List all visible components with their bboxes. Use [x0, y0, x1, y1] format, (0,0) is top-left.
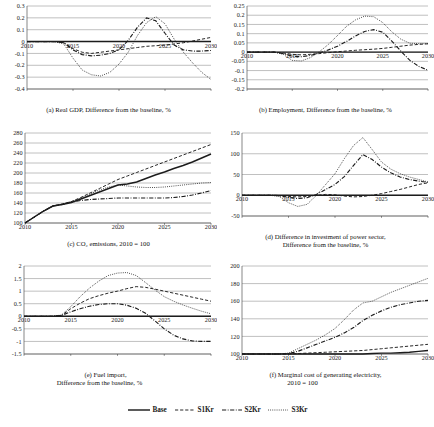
y-tick-label: -0.3 [15, 73, 25, 80]
caption-f-line1: (f) Marginal cost of generating electric… [223, 371, 428, 379]
y-tick-label: 140 [13, 199, 22, 206]
x-tick-label: 2025 [375, 195, 387, 202]
legend-item-s3kr: S3Kr [267, 406, 307, 414]
legend-swatch-dashed [174, 407, 196, 413]
legend-swatch-solid [127, 407, 151, 413]
chart-svg-d: -5005010015020102015202020252030 [217, 127, 434, 232]
chart-panel-d: -5005010015020102015202020252030 (d) Dif… [217, 127, 434, 260]
x-tick-label: 2010 [19, 223, 31, 230]
y-tick-label: 200 [230, 262, 239, 269]
x-tick-label: 2020 [331, 52, 343, 59]
x-tick-label: 2030 [205, 316, 217, 323]
x-tick-label: 2015 [67, 42, 79, 49]
chart-panel-f: 10012014016018020020102015202020252030 (… [217, 260, 434, 400]
y-tick-label: 1.5 [14, 275, 22, 282]
caption-d-line2: Difference from the baseline, % [223, 241, 428, 249]
legend-swatch-dotted [267, 407, 289, 413]
y-tick-label: 160 [13, 189, 22, 196]
y-tick-label: 180 [230, 280, 239, 287]
series-line-s2kr [242, 300, 428, 354]
x-tick-label: 2030 [422, 52, 434, 59]
y-tick-label: -0.2 [235, 85, 245, 92]
x-tick-label: 2010 [236, 354, 248, 361]
caption-e-line1: (e) Fuel import, [0, 371, 211, 379]
y-tick-label: 0.15 [234, 21, 245, 28]
chart-panel-a: -0.4-0.3-0.2-0.100.10.20.320102015202020… [0, 0, 217, 127]
y-tick-label: 260 [13, 139, 22, 146]
y-tick-label: -1 [16, 338, 21, 345]
x-tick-label: 2030 [422, 354, 434, 361]
y-tick-label: 280 [13, 129, 22, 136]
x-tick-label: 2015 [282, 354, 294, 361]
y-tick-label: 180 [13, 179, 22, 186]
x-tick-label: 2025 [375, 354, 387, 361]
x-tick-label: 2015 [65, 316, 77, 323]
plot-area-f: 10012014016018020020102015202020252030 [217, 260, 434, 370]
caption-d-line1: (d) Difference in investment of power se… [223, 233, 428, 241]
y-tick-label: 1 [18, 287, 21, 294]
chart-svg-b: -0.2-0.15-0.1-0.0500.050.10.150.20.25201… [217, 0, 434, 105]
y-tick-label: -1.5 [12, 350, 22, 357]
x-tick-label: 2020 [329, 354, 341, 361]
y-tick-label: 0.25 [234, 2, 245, 9]
y-tick-label: 140 [230, 315, 239, 322]
y-tick-label: 160 [230, 297, 239, 304]
x-tick-label: 2010 [236, 195, 248, 202]
y-tick-label: -0.5 [12, 325, 22, 332]
caption-c: (c) CO₂ emissions, 2010 = 100 [0, 239, 217, 248]
y-tick-label: 240 [13, 149, 22, 156]
caption-f: (f) Marginal cost of generating electric… [217, 370, 434, 387]
caption-a: (a) Real GDP, Difference from the baseli… [0, 105, 217, 114]
y-tick-label: 120 [230, 333, 239, 340]
caption-a-line1: (a) Real GDP, Difference from the baseli… [46, 106, 170, 113]
legend-label: Base [153, 406, 167, 414]
x-tick-label: 2010 [21, 42, 33, 49]
x-tick-label: 2015 [65, 223, 77, 230]
chart-svg-a: -0.4-0.3-0.2-0.100.10.20.320102015202020… [0, 0, 217, 105]
plot-area-d: -5005010015020102015202020252030 [217, 127, 434, 232]
y-tick-label: 0.1 [17, 26, 25, 33]
y-tick-label: 0.3 [17, 2, 25, 9]
series-line-base [25, 154, 211, 223]
series-line-s2kr [242, 155, 428, 199]
y-tick-label: 50 [233, 171, 239, 178]
y-tick-label: 0.5 [14, 300, 22, 307]
series-line-s3kr [24, 273, 211, 317]
x-tick-label: 2030 [205, 223, 217, 230]
x-tick-label: 2025 [158, 316, 170, 323]
caption-b: (b) Employment, Difference from the base… [217, 105, 434, 114]
chart-panel-b: -0.2-0.15-0.1-0.0500.050.10.150.20.25201… [217, 0, 434, 127]
y-tick-label: 0.1 [237, 30, 245, 37]
y-tick-label: 0.05 [234, 39, 245, 46]
y-tick-label: 100 [230, 150, 239, 157]
x-tick-label: 2025 [377, 52, 389, 59]
plot-area-a: -0.4-0.3-0.2-0.100.10.20.320102015202020… [0, 0, 217, 105]
caption-f-line2: 2010 = 100 [177, 379, 428, 387]
plot-area-b: -0.2-0.15-0.1-0.0500.050.10.150.20.25201… [217, 0, 434, 105]
caption-b-line1: (b) Employment, Difference from the base… [259, 106, 392, 113]
x-tick-label: 2025 [159, 42, 171, 49]
chart-svg-f: 10012014016018020020102015202020252030 [217, 260, 434, 370]
legend-item-base: Base [127, 406, 167, 414]
y-tick-label: -0.1 [235, 67, 245, 74]
x-tick-label: 2030 [422, 195, 434, 202]
plot-area-c: 1001201401601802002202402602802010201520… [0, 127, 217, 239]
y-tick-label: 150 [230, 129, 239, 136]
x-tick-label: 2020 [329, 195, 341, 202]
chart-svg-e: -1.5-1-0.500.511.5220102015202020252030 [0, 260, 217, 370]
x-tick-label: 2020 [112, 223, 124, 230]
y-tick-label: 0.2 [17, 14, 25, 21]
x-tick-label: 2010 [18, 316, 30, 323]
y-tick-label: -0.4 [15, 85, 25, 92]
chart-svg-c: 1001201401601802002202402602802010201520… [0, 127, 217, 239]
figure-panel-grid: -0.4-0.3-0.2-0.100.10.20.320102015202020… [0, 0, 434, 427]
x-tick-label: 2015 [286, 52, 298, 59]
caption-d: (d) Difference in investment of power se… [217, 232, 434, 249]
legend-items: BaseS1KrS2KrS3Kr [0, 400, 434, 420]
y-tick-label: 2 [18, 262, 21, 269]
y-tick-label: 0.2 [237, 11, 245, 18]
legend-swatch-dash-dot [221, 407, 243, 413]
series-line-s1kr [25, 145, 211, 224]
y-tick-label: 200 [13, 169, 22, 176]
legend-label: S2Kr [245, 406, 261, 414]
